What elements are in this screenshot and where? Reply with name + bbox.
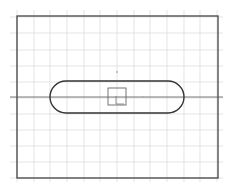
- grid-lines: [10, 10, 223, 182]
- reference-point: [116, 71, 118, 73]
- reference-points: [116, 71, 144, 98]
- reference-point: [142, 96, 144, 98]
- cad-drawing-canvas: [0, 0, 233, 190]
